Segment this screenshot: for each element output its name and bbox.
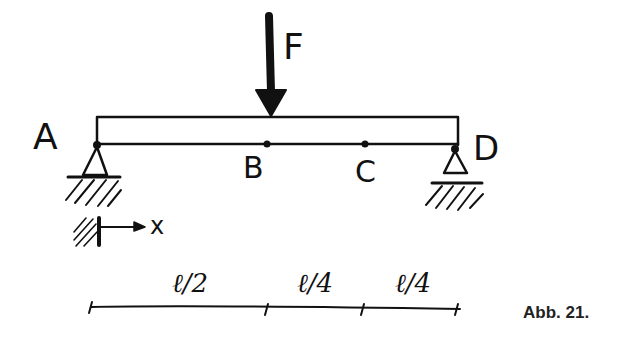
point-b-label: B (243, 150, 264, 185)
force-label: F (283, 26, 304, 67)
dimension-label-cd: ℓ/4 (395, 268, 431, 299)
point-c-label: C (355, 154, 376, 189)
point-b-dot (264, 141, 271, 148)
point-d-label: D (473, 128, 499, 168)
x-axis-arrow-icon (74, 218, 145, 246)
x-axis-label: x (150, 212, 164, 240)
beam (97, 117, 458, 145)
dimension-label-bc: ℓ/4 (297, 268, 333, 299)
dimension-line (89, 302, 460, 315)
point-c-dot (362, 141, 369, 148)
force-arrow-icon (256, 16, 286, 116)
pin-support-left-icon (66, 141, 121, 206)
figure-caption: Abb. 21. (523, 303, 589, 323)
point-a-label: A (33, 116, 58, 157)
dimension-label-ab: ℓ/2 (172, 268, 208, 299)
